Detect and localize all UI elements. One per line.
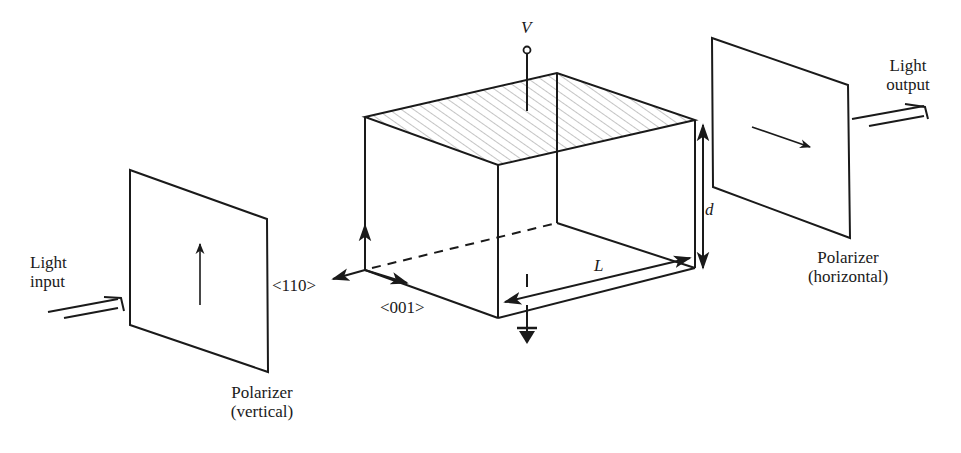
axis-110-label: <110> bbox=[272, 276, 316, 295]
light-input-line1: Light bbox=[30, 253, 67, 272]
axis-001-label: <001> bbox=[380, 298, 425, 317]
output-polarizer bbox=[712, 38, 850, 238]
top-electrode bbox=[365, 73, 695, 165]
input-polarizer bbox=[130, 170, 268, 372]
light-output-arrow-icon bbox=[852, 104, 928, 126]
light-input-label: Light input bbox=[30, 253, 67, 291]
light-output-label: Light output bbox=[876, 56, 940, 94]
polarizer-in-line1: Polarizer bbox=[222, 383, 302, 402]
polarizer-horizontal-label: Polarizer (horizontal) bbox=[793, 248, 903, 286]
polarizer-vertical-label: Polarizer (vertical) bbox=[222, 383, 302, 421]
axis-110-arrow bbox=[333, 270, 365, 279]
light-input-line2: input bbox=[30, 272, 67, 291]
polarizer-out-line2: (horizontal) bbox=[793, 267, 903, 286]
polarizer-out-line1: Polarizer bbox=[793, 248, 903, 267]
polarizer-in-line2: (vertical) bbox=[222, 402, 302, 421]
axis-001-arrow bbox=[365, 270, 407, 283]
modulator-diagram bbox=[0, 0, 961, 453]
light-output-line1: Light bbox=[876, 56, 940, 75]
voltage-terminal-icon bbox=[524, 47, 531, 54]
light-input-arrow-icon bbox=[48, 297, 124, 318]
length-label: L bbox=[594, 256, 603, 275]
light-output-line2: output bbox=[876, 75, 940, 94]
thickness-label: d bbox=[705, 200, 714, 219]
voltage-label: V bbox=[521, 18, 531, 37]
